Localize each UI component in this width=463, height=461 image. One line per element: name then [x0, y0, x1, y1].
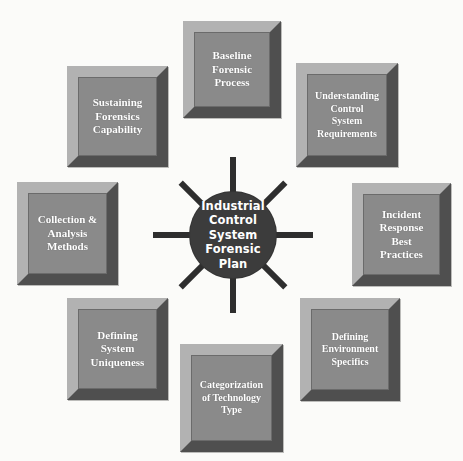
- node-label-incident-response-best-practices: Incident Response Best Practices: [377, 208, 425, 262]
- node-defining-environment-specifics[interactable]: Defining Environment Specifics: [300, 298, 400, 401]
- node-face: Baseline Forensic Process: [194, 32, 270, 107]
- node-label-categorization-of-technology-type: Categorization of Technology Type: [198, 379, 265, 417]
- node-label-baseline-forensic-process: Baseline Forensic Process: [210, 49, 254, 90]
- node-face: Defining Environment Specifics: [311, 309, 389, 390]
- node-face: Defining System Uniqueness: [78, 309, 157, 389]
- node-face: Incident Response Best Practices: [363, 194, 440, 275]
- node-face: Collection & Analysis Methods: [28, 193, 107, 274]
- node-incident-response-best-practices[interactable]: Incident Response Best Practices: [352, 183, 451, 286]
- central-hub[interactable]: Industrial Control System Forensic Plan: [190, 192, 276, 278]
- node-label-defining-environment-specifics: Defining Environment Specifics: [320, 331, 381, 369]
- node-label-sustaining-forensics-capability: Sustaining Forensics Capability: [91, 96, 145, 137]
- node-label-defining-system-uniqueness: Defining System Uniqueness: [89, 329, 147, 370]
- node-face: Understanding Control System Requirement…: [307, 74, 387, 156]
- central-hub-label: Industrial Control System Forensic Plan: [190, 199, 276, 272]
- node-sustaining-forensics-capability[interactable]: Sustaining Forensics Capability: [67, 66, 168, 167]
- node-label-collection-analysis-methods: Collection & Analysis Methods: [36, 213, 100, 254]
- node-defining-system-uniqueness[interactable]: Defining System Uniqueness: [67, 298, 168, 400]
- diagram-canvas: Industrial Control System Forensic Plan …: [0, 0, 463, 461]
- node-baseline-forensic-process[interactable]: Baseline Forensic Process: [183, 21, 281, 118]
- node-understanding-control-system-requirements[interactable]: Understanding Control System Requirement…: [296, 63, 398, 167]
- node-collection-analysis-methods[interactable]: Collection & Analysis Methods: [17, 182, 118, 285]
- node-label-understanding-control-system-requirements: Understanding Control System Requirement…: [313, 90, 381, 140]
- node-face: Sustaining Forensics Capability: [78, 77, 157, 156]
- node-face: Categorization of Technology Type: [191, 355, 272, 441]
- node-categorization-of-technology-type[interactable]: Categorization of Technology Type: [180, 344, 283, 452]
